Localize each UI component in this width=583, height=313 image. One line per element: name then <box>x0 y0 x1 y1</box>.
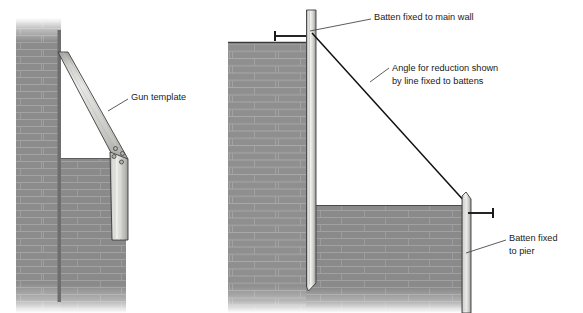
bolt-hole-icon <box>120 160 124 164</box>
label-angle-for-reduction-line1: Angle for reduction shown <box>392 63 498 73</box>
panel-right-battens-detail: Batten fixed to main wall Angle for redu… <box>228 10 558 313</box>
diagram-svg: Gun template <box>0 0 583 313</box>
diagram-canvas: Gun template <box>0 0 583 313</box>
reduction-line <box>312 33 466 203</box>
batten-main-wall <box>307 10 317 291</box>
pier-wall-right <box>306 205 466 313</box>
nail-pier <box>468 208 494 218</box>
main-wall-left <box>16 18 61 313</box>
label-gun-template: Gun template <box>131 92 186 102</box>
nail-main-wall <box>274 31 306 41</box>
bolt-hole-icon <box>121 152 125 156</box>
panel-left-gun-template-detail: Gun template <box>16 18 186 313</box>
main-wall-left-edge <box>58 30 62 302</box>
label-batten-fixed-to-pier-line2: to pier <box>509 246 535 256</box>
bolt-hole-icon <box>114 147 118 151</box>
label-angle-for-reduction-group: Angle for reduction shown by line fixed … <box>370 63 498 86</box>
label-batten-pier-group: Batten fixed to pier <box>466 233 558 256</box>
main-wall-right <box>228 42 306 313</box>
bolt-hole-icon <box>112 155 116 159</box>
label-batten-fixed-to-main-wall: Batten fixed to main wall <box>374 12 474 22</box>
label-gun-template-group: Gun template <box>108 92 186 111</box>
leader-line-gun-template <box>108 99 128 111</box>
label-batten-main-wall-group: Batten fixed to main wall <box>310 12 474 31</box>
label-angle-for-reduction-line2: by line fixed to battens <box>392 76 484 86</box>
label-batten-fixed-to-pier-line1: Batten fixed <box>509 233 558 243</box>
leader-line-batten-pier <box>466 240 506 253</box>
leader-line-angle-for-reduction <box>370 68 389 82</box>
leader-line-batten-main-wall <box>310 19 371 31</box>
